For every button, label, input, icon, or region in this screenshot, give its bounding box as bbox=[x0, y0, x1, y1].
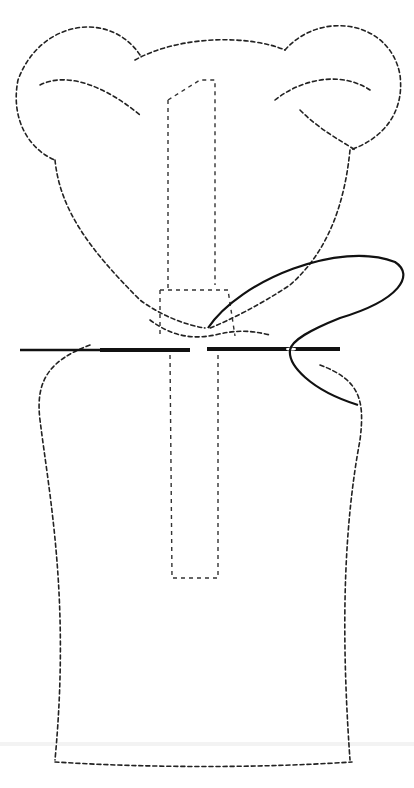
thread-loop bbox=[208, 256, 403, 405]
bear-illustration bbox=[0, 0, 414, 788]
dowel-guide bbox=[160, 80, 235, 578]
right-ear bbox=[285, 26, 401, 150]
fur-outline bbox=[16, 26, 400, 767]
needle bbox=[20, 348, 340, 351]
left-ear bbox=[16, 27, 140, 160]
